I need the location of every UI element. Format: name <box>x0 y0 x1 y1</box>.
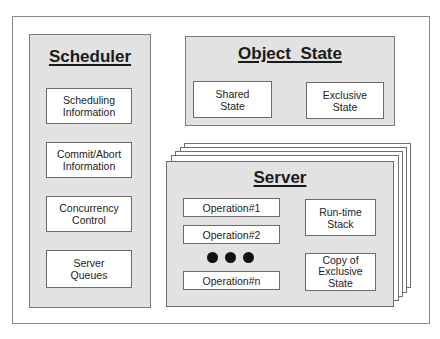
operation-1-label: Operation#1 <box>203 202 261 214</box>
scheduling-information-label: Scheduling Information <box>63 94 116 118</box>
scheduling-information-box: Scheduling Information <box>46 88 132 124</box>
ellipsis-dot-2 <box>225 252 236 263</box>
copy-of-exclusive-state-label: Copy of Exclusive State <box>318 255 362 290</box>
runtime-stack-label: Run-time Stack <box>319 206 362 230</box>
operation-2-box: Operation#2 <box>183 225 280 244</box>
shared-state-label: Shared State <box>216 88 250 112</box>
commit-abort-information-box: Commit/Abort Information <box>46 142 132 178</box>
ellipsis-dot-1 <box>207 252 218 263</box>
exclusive-state-box: Exclusive State <box>306 82 384 119</box>
runtime-stack-box: Run-time Stack <box>305 199 376 236</box>
object-state-title: Object State <box>185 44 395 64</box>
operation-n-label: Operation#n <box>203 275 261 287</box>
copy-of-exclusive-state-box: Copy of Exclusive State <box>305 253 376 291</box>
ellipsis-dot-3 <box>243 252 254 263</box>
operation-2-label: Operation#2 <box>203 229 261 241</box>
server-queues-label: Server Queues <box>71 257 108 281</box>
server-title: Server <box>166 168 394 188</box>
operation-1-box: Operation#1 <box>183 198 280 217</box>
concurrency-control-box: Concurrency Control <box>46 196 132 232</box>
scheduler-title: Scheduler <box>29 47 151 67</box>
concurrency-control-label: Concurrency Control <box>59 202 119 226</box>
exclusive-state-label: Exclusive State <box>323 89 367 113</box>
commit-abort-information-label: Commit/Abort Information <box>57 148 121 172</box>
shared-state-box: Shared State <box>193 81 272 118</box>
server-queues-box: Server Queues <box>46 250 132 288</box>
operation-n-box: Operation#n <box>183 271 280 290</box>
